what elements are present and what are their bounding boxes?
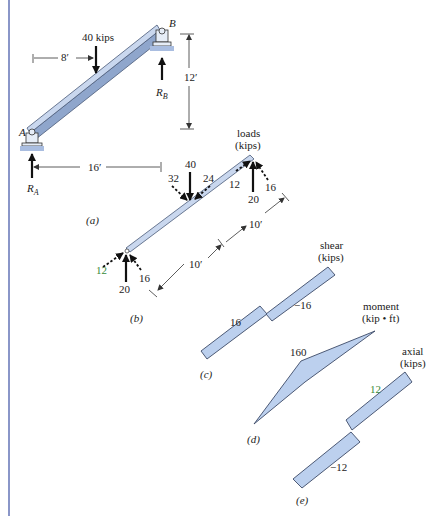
right-vertical-load-value: 20 (248, 193, 260, 205)
axial-title-line1: axial (402, 345, 423, 357)
mid-normal-load-value: 32 (168, 172, 179, 184)
panel-d-caption: (d) (247, 433, 260, 446)
beam-side-face (30, 30, 166, 139)
loads-title-line1: loads (237, 127, 260, 139)
axial-tension-region (346, 372, 412, 430)
panel-d-moment-diagram: 160 moment (kip • ft) (d) (247, 300, 400, 446)
panel-b-caption: (b) (130, 312, 143, 325)
right-normal-arrow-icon (256, 162, 268, 180)
mid-vertical-load-value: 40 (185, 158, 197, 170)
reaction-b-label: RB (155, 86, 168, 101)
right-normal-load-value: 16 (265, 181, 277, 193)
panel-a-caption: (a) (86, 214, 99, 227)
support-b-label: B (169, 17, 176, 29)
loads-title-line2: (kips) (235, 139, 261, 152)
shear-title-line1: shear (320, 239, 344, 251)
axial-compression-region (293, 432, 360, 488)
left-normal-arrow-icon (130, 255, 141, 270)
panel-e-caption: (e) (296, 494, 309, 507)
moment-peak-value: 160 (290, 346, 307, 358)
shear-positive-region (201, 306, 267, 359)
panel-b-free-body-loads: loads (kips) 40 32 24 12 20 16 12 20 16 … (96, 127, 289, 325)
mid-normal-arrow-icon (172, 186, 187, 200)
left-vertical-load-value: 20 (119, 283, 131, 295)
support-a-label: A (18, 126, 26, 138)
panel-c-caption: (c) (200, 368, 213, 381)
dim-12ft-label: 12′ (184, 71, 197, 83)
shear-value-right: −16 (294, 299, 312, 311)
mid-axial-load-value: 24 (203, 172, 215, 184)
dim-8ft-label: 8′ (61, 51, 69, 63)
right-axial-load-value: 12 (229, 178, 240, 190)
reaction-a-label: RA (26, 182, 39, 197)
dim-lower-10ft-label: 10′ (189, 258, 202, 270)
shear-negative-region (266, 267, 335, 321)
load-40-kips-label: 40 kips (82, 31, 114, 43)
left-normal-load-value: 16 (139, 272, 151, 284)
beam-analysis-figure: A B 40 kips 8′ RB 12′ RA 16′ (a) loads (0, 0, 437, 516)
panel-a-inclined-beam: A B 40 kips 8′ RB 12′ RA 16′ (a) (18, 17, 197, 227)
dim-upper-10ft-label: 10′ (249, 218, 262, 230)
shear-value-left: 16 (230, 316, 242, 328)
axial-value-upper: 12 (370, 383, 381, 395)
axial-value-lower: −12 (330, 461, 347, 473)
left-axial-load-value: 12 (96, 264, 107, 276)
moment-region (254, 331, 375, 424)
moment-title-line1: moment (363, 300, 399, 312)
axial-title-line2: (kips) (400, 357, 426, 370)
dim-16ft-label: 16′ (88, 161, 101, 173)
moment-title-line2: (kip • ft) (362, 312, 400, 325)
shear-title-line2: (kips) (318, 251, 344, 264)
